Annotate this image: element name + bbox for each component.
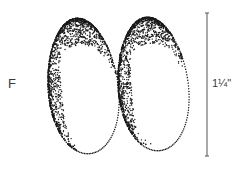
right-seed — [110, 13, 196, 155]
seed-illustration — [0, 0, 245, 174]
size-measurement-label: 1¼" — [212, 78, 231, 89]
seed-pair — [40, 13, 196, 158]
scale-bar — [205, 13, 209, 156]
panel-label: F — [8, 77, 16, 90]
left-seed — [40, 14, 126, 158]
